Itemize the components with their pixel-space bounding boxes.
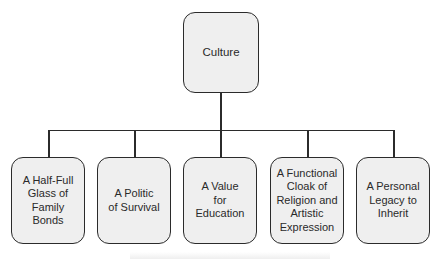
figure-caption-cropped [130,252,330,259]
child-drop-connector-3 [220,130,222,157]
child-drop-connector-1 [48,130,50,157]
child-node-label: A Politic of Survival [108,187,159,214]
child-drop-connector-2 [134,130,136,157]
child-node-value-for-education: A Value for Education [183,157,257,244]
child-node-label: A Half-Full Glass of Family Bonds [23,174,74,228]
child-node-politic-of-survival: A Politic of Survival [97,157,171,244]
child-drop-connector-5 [393,130,395,157]
tree-diagram: Culture A Half-Full Glass of Family Bond… [0,0,442,259]
child-node-functional-cloak: A Functional Cloak of Religion and Artis… [270,157,344,244]
child-node-personal-legacy: A Personal Legacy to Inherit [356,157,430,244]
child-drop-connector-4 [307,130,309,157]
child-node-family-bonds: A Half-Full Glass of Family Bonds [11,157,85,244]
child-node-label: A Functional Cloak of Religion and Artis… [276,167,337,235]
root-node-label: Culture [202,46,239,60]
root-node-culture: Culture [183,12,259,93]
child-node-label: A Personal Legacy to Inherit [366,180,419,221]
child-node-label: A Value for Education [196,180,245,221]
root-stem-connector [220,93,222,131]
